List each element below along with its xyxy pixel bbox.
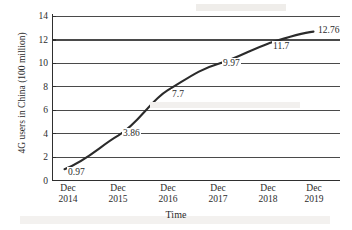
x-tick-year: 2016 (140, 194, 196, 205)
y-axis-title: 4G users in China (100 million) (17, 8, 27, 178)
x-tick-label-dec-2017: Dec 2017 (190, 183, 246, 205)
x-tick-label-dec-2016: Dec 2016 (140, 183, 196, 205)
data-label-0: 0.97 (67, 167, 86, 177)
data-label-2: 7.7 (171, 89, 185, 99)
x-tick-month: Dec (286, 183, 342, 194)
x-tick-label-dec-2014: Dec 2014 (40, 183, 96, 205)
line-chart-figure: 14 12 10 8 6 4 2 0 Dec 2014 Dec 2015 Dec… (0, 0, 352, 230)
x-axis-title: Time (0, 209, 352, 220)
data-label-1: 3.86 (122, 128, 141, 138)
x-tick-year: 2014 (40, 194, 96, 205)
x-tick-label-dec-2019: Dec 2019 (286, 183, 342, 205)
x-tick-month: Dec (140, 183, 196, 194)
x-tick-month: Dec (90, 183, 146, 194)
data-label-4: 11.7 (272, 41, 290, 51)
data-label-5: 12.76 (317, 25, 340, 35)
x-tick-label-dec-2015: Dec 2015 (90, 183, 146, 205)
x-tick-year: 2019 (286, 194, 342, 205)
data-label-3: 9.97 (222, 58, 241, 68)
gridlines (56, 17, 340, 158)
x-tick-month: Dec (190, 183, 246, 194)
x-tick-year: 2017 (190, 194, 246, 205)
x-tick-year: 2015 (90, 194, 146, 205)
data-series-line (65, 32, 314, 170)
x-tick-month: Dec (40, 183, 96, 194)
